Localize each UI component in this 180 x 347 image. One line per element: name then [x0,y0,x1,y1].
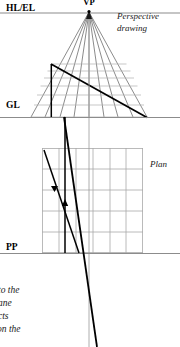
vanishing-ray [89,12,104,117]
label-plan: Plan [149,159,167,169]
caption-line-4: on the [0,324,20,334]
label-vanishing-point: VP [83,0,94,7]
plan-grid-group [42,148,143,253]
vanishing-ray [74,12,89,117]
label-picture-plane: PP [6,242,18,252]
perspective-construction-figure: VP HL/EL GL PP Perspective drawing Plan … [0,0,180,347]
vanishing-ray [31,12,89,117]
label-perspective-drawing-line2: drawing [117,23,148,33]
label-horizon-eye-level: HL/EL [6,3,35,13]
caption-line-2: ane [0,298,12,308]
label-perspective-drawing-line1: Perspective [116,11,159,21]
caption-line-1: to the [0,285,19,295]
vanishing-ray [60,12,89,117]
vanishing-point-marker [86,10,92,19]
vanishing-ray [89,12,118,117]
projector-arrow-up [62,199,68,206]
label-ground-line: GL [6,100,20,110]
caption-line-3: cts [0,311,9,321]
plan-slanted-projector [44,150,79,253]
